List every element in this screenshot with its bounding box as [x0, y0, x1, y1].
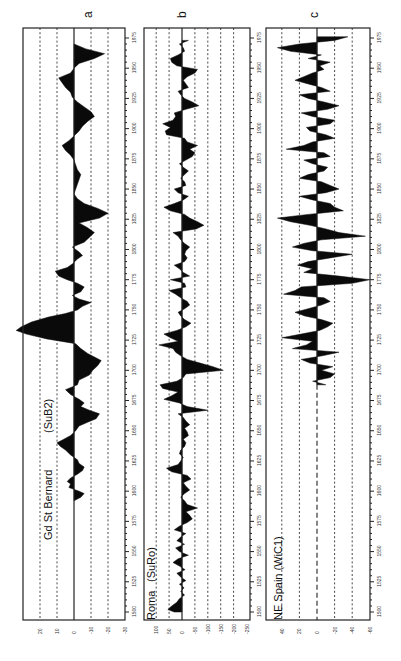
year-tick-label: 1875: [376, 152, 382, 163]
value-tick-label: 50: [166, 628, 172, 634]
panel-c-title: NE Spain (WiC1): [272, 536, 284, 620]
panel-a-title: Gd St Bernard: [42, 470, 54, 540]
year-tick-label: 1900: [131, 122, 137, 133]
year-tick-label: 1800: [376, 243, 382, 254]
year-tick-label: 1575: [131, 515, 137, 526]
year-tick-label: 1725: [131, 334, 137, 345]
value-tick-label: -40: [349, 627, 355, 634]
year-tick-label: 1675: [376, 394, 382, 405]
year-tick-label: 1975: [256, 32, 262, 43]
year-tick-label: 1600: [376, 485, 382, 496]
panel-c-letter: c: [307, 12, 321, 18]
value-tick-label: 100: [153, 625, 159, 634]
series-area: [159, 40, 224, 612]
panel-a-gd-st-bernard: 1500152515501575160016251650167517001725…: [16, 28, 137, 634]
year-tick-label: 1950: [131, 62, 137, 73]
year-tick-label: 1825: [131, 213, 137, 224]
year-tick-label: 1650: [131, 424, 137, 435]
year-tick-label: 1825: [256, 213, 262, 224]
value-tick-label: 0: [179, 631, 185, 634]
year-tick-label: 1575: [256, 515, 262, 526]
year-tick-label: 1925: [256, 92, 262, 103]
year-tick-label: 1875: [131, 152, 137, 163]
year-tick-label: 1550: [131, 545, 137, 556]
year-tick-label: 1750: [376, 304, 382, 315]
year-tick-label: 1725: [376, 334, 382, 345]
value-tick-label: 0: [71, 631, 77, 634]
year-tick-label: 1525: [376, 575, 382, 586]
year-tick-label: 1600: [256, 485, 262, 496]
year-tick-label: 1550: [376, 545, 382, 556]
panel-frame: [144, 28, 250, 620]
year-tick-label: 1750: [256, 304, 262, 315]
year-tick-label: 1500: [131, 606, 137, 617]
year-tick-label: 1700: [376, 364, 382, 375]
year-tick-label: 1850: [376, 183, 382, 194]
year-tick-label: 1525: [256, 575, 262, 586]
panel-b-subtitle: (SuRo): [145, 547, 157, 582]
year-tick-label: 1650: [376, 424, 382, 435]
year-tick-label: 1625: [256, 455, 262, 466]
year-tick-label: 1675: [131, 394, 137, 405]
value-tick-label: 0: [314, 631, 320, 634]
value-tick-label: 20: [37, 628, 43, 634]
year-tick-label: 1525: [131, 575, 137, 586]
year-tick-label: 1550: [256, 545, 262, 556]
panel-b-title: Roma: [145, 590, 157, 620]
value-tick-label: -50: [192, 627, 198, 634]
value-tick-label: -200: [231, 624, 237, 634]
year-tick-label: 1775: [256, 273, 262, 284]
year-tick-label: 1900: [376, 122, 382, 133]
year-tick-label: 1500: [376, 606, 382, 617]
year-tick-label: 1575: [376, 515, 382, 526]
value-tick-label: -30: [122, 627, 128, 634]
value-tick-label: -10: [88, 627, 94, 634]
year-tick-label: 1675: [256, 394, 262, 405]
year-tick-label: 1950: [256, 62, 262, 73]
value-tick-label: -60: [367, 627, 373, 634]
value-tick-label: -20: [332, 627, 338, 634]
year-tick-label: 1875: [256, 152, 262, 163]
year-tick-label: 1925: [376, 92, 382, 103]
value-tick-label: -250: [244, 624, 250, 634]
year-tick-label: 1925: [131, 92, 137, 103]
year-tick-label: 1650: [256, 424, 262, 435]
value-tick-label: 10: [54, 628, 60, 634]
year-tick-label: 1825: [376, 213, 382, 224]
year-tick-label: 1625: [131, 455, 137, 466]
year-tick-label: 1625: [376, 455, 382, 466]
year-tick-label: 1750: [131, 304, 137, 315]
year-tick-label: 1800: [131, 243, 137, 254]
year-tick-label: 1975: [131, 32, 137, 43]
panel-a-letter: a: [81, 11, 95, 18]
year-tick-label: 1700: [131, 364, 137, 375]
value-tick-label: -100: [205, 624, 211, 634]
value-tick-label: 20: [296, 628, 302, 634]
year-tick-label: 1900: [256, 122, 262, 133]
year-tick-label: 1775: [131, 273, 137, 284]
series-area: [16, 44, 108, 501]
value-tick-label: -150: [218, 624, 224, 634]
year-tick-label: 1700: [256, 364, 262, 375]
figure-canvas: 1500152515501575160016251650167517001725…: [0, 0, 401, 661]
year-tick-label: 1850: [131, 183, 137, 194]
panel-b-roma: 1500152515501575160016251650167517001725…: [144, 28, 262, 634]
value-tick-label: 40: [279, 628, 285, 634]
year-tick-label: 1725: [256, 334, 262, 345]
panel-b-letter: b: [175, 11, 189, 18]
year-tick-label: 1850: [256, 183, 262, 194]
year-tick-label: 1775: [376, 273, 382, 284]
year-tick-label: 1950: [376, 62, 382, 73]
year-tick-label: 1600: [131, 485, 137, 496]
year-tick-label: 1975: [376, 32, 382, 43]
year-tick-label: 1500: [256, 606, 262, 617]
panel-a-subtitle: (SuB2): [42, 399, 54, 433]
value-tick-label: -20: [105, 627, 111, 634]
year-tick-label: 1800: [256, 243, 262, 254]
series-area: [277, 37, 369, 385]
